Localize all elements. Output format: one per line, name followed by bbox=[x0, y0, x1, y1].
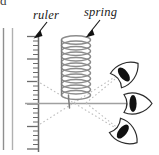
eye-icon-middle bbox=[124, 93, 152, 114]
eye-icon-top bbox=[109, 55, 144, 89]
label-spring: spring bbox=[84, 5, 117, 20]
margin-rules bbox=[4, 28, 13, 150]
arrow-pointer-icon-spring bbox=[86, 20, 101, 38]
coil-spring-icon bbox=[62, 36, 91, 108]
parallax-spring-ruler-figure: d bbox=[0, 0, 159, 155]
label-ruler: ruler bbox=[33, 8, 59, 23]
ruler-scale-icon bbox=[27, 35, 39, 152]
diagram-canvas bbox=[0, 0, 159, 155]
eye-icon-bottom bbox=[108, 117, 143, 151]
